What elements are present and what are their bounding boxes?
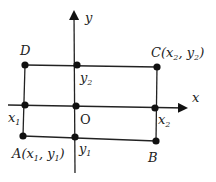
tick-x2-label: x2 <box>158 112 170 129</box>
tick-y1-label: y1 <box>78 141 91 158</box>
y-axis <box>74 12 75 173</box>
tick-x1-label: x1 <box>8 110 20 127</box>
rect-left-edge <box>23 65 25 136</box>
x-axis <box>8 105 186 108</box>
point-D-dot <box>21 61 28 68</box>
origin-dot <box>72 102 79 109</box>
tick-y2-label: y2 <box>79 70 92 87</box>
point-A-label: A(x1, y1) <box>11 146 65 163</box>
point-x1-dot <box>21 101 28 108</box>
x-axis-label: x <box>192 90 200 105</box>
point-D-label: D <box>19 43 31 58</box>
point-x2-dot <box>151 104 158 111</box>
point-B-dot <box>152 137 159 144</box>
rect-bottom-edge <box>23 136 156 141</box>
point-A-dot <box>19 132 26 139</box>
point-C-label: C(x2, y2) <box>151 45 204 62</box>
point-y2-dot <box>73 61 80 68</box>
point-C-dot <box>153 63 160 70</box>
point-y1-dot <box>71 133 78 140</box>
origin-label: O <box>80 112 91 127</box>
y-axis-label: y <box>84 10 93 25</box>
rect-right-edge <box>156 67 157 141</box>
rect-top-edge <box>25 65 157 67</box>
coordinate-rectangle-diagram: y x O D B C(x2, y2) A(x1, y1) y2 x1 x2 y… <box>0 0 216 182</box>
point-B-label: B <box>147 150 158 165</box>
